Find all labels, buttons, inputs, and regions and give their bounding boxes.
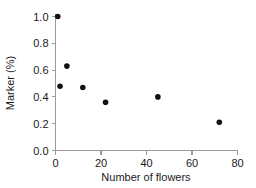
x-tick-label: 80 xyxy=(231,157,243,169)
y-tick-label: 0.8 xyxy=(33,37,48,49)
scatter-plot-figure: 0.00.20.40.60.81.0 020406080 Number of f… xyxy=(0,0,256,188)
y-tick-label: 0.2 xyxy=(33,118,48,130)
y-tick-label: 1.0 xyxy=(33,11,48,23)
scatter-point xyxy=(155,94,161,100)
plot-canvas: 0.00.20.40.60.81.0 020406080 Number of f… xyxy=(0,0,256,188)
scatter-point xyxy=(57,83,63,89)
y-axis-title: Marker (%) xyxy=(4,56,16,110)
scatter-point xyxy=(103,99,109,105)
y-tick-label: 0.6 xyxy=(33,64,48,76)
x-tick-label: 40 xyxy=(140,157,152,169)
scatter-point xyxy=(217,120,223,126)
scatter-point xyxy=(80,85,86,91)
y-tick-label: 0.0 xyxy=(33,145,48,157)
y-tick-label: 0.4 xyxy=(33,91,48,103)
x-tick-label: 0 xyxy=(52,157,58,169)
scatter-point xyxy=(55,14,61,20)
x-axis-title: Number of flowers xyxy=(101,171,191,183)
x-tick-label: 60 xyxy=(186,157,198,169)
x-tick-label: 20 xyxy=(95,157,107,169)
scatter-point xyxy=(64,63,70,69)
